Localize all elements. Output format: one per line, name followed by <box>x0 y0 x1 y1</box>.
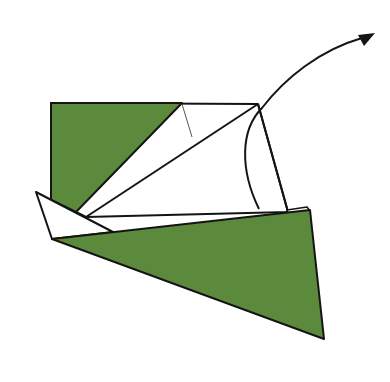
origami-diagram-canvas <box>0 0 390 382</box>
origami-fold-diagram <box>0 0 390 382</box>
